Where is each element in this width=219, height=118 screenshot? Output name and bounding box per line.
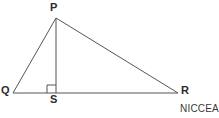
segment-pr bbox=[56, 18, 178, 93]
vertex-label-q: Q bbox=[1, 85, 10, 96]
geometry-figure: P Q R S NICCEA bbox=[0, 0, 219, 118]
segment-pq bbox=[13, 18, 56, 93]
triangle-diagram-svg bbox=[0, 0, 219, 118]
attribution-text: NICCEA bbox=[180, 103, 219, 114]
vertex-label-r: R bbox=[181, 85, 189, 96]
vertex-label-p: P bbox=[50, 2, 57, 13]
vertex-label-s: S bbox=[50, 94, 57, 105]
right-angle-marker-icon bbox=[47, 85, 56, 93]
